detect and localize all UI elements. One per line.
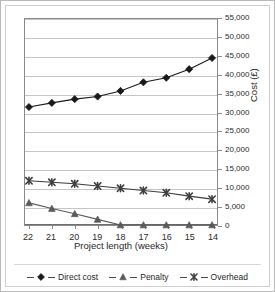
x-axis-tick [75, 225, 76, 229]
y-axis-tick-label: 35,000 [225, 90, 249, 98]
legend-label: Direct cost [57, 272, 98, 282]
y-axis-tick [218, 131, 222, 132]
legend-dash-right [48, 277, 55, 278]
y-axis-tick [218, 150, 222, 151]
legend-dash-left [109, 277, 116, 278]
series-layer [25, 19, 217, 225]
x-axis-tick [98, 225, 99, 229]
y-axis-tick-label: 0 [225, 222, 229, 230]
data-point-marker [48, 99, 55, 106]
chart-figure: 05,00010,00015,00020,00025,00030,00035,0… [0, 0, 275, 292]
y-axis-tick-label: 30,000 [225, 109, 249, 117]
legend-dash-right [201, 277, 208, 278]
plot-area [24, 18, 218, 226]
y-axis-tick-label: 15,000 [225, 165, 249, 173]
y-axis-tick [218, 56, 222, 57]
series-penalty [26, 200, 216, 228]
series-line [29, 58, 212, 107]
y-axis-tick [218, 207, 222, 208]
chart-legend: Direct costPenaltyOverhead [14, 264, 261, 286]
y-axis-tick [218, 94, 222, 95]
y-axis-tick [218, 188, 222, 189]
data-point-marker [71, 96, 78, 103]
y-axis-tick [218, 113, 222, 114]
legend-item-penalty[interactable]: Penalty [109, 272, 168, 282]
x-axis-title: Project length (weeks) [24, 240, 218, 251]
y-axis-tick-label: 20,000 [225, 146, 249, 154]
legend-item-direct-cost[interactable]: Direct cost [27, 272, 98, 282]
x-axis-tick [52, 225, 53, 229]
x-axis-tick [29, 225, 30, 229]
legend-label: Overhead [210, 272, 248, 282]
series-direct-cost [25, 54, 215, 110]
y-axis-tick-label: 5,000 [225, 203, 245, 211]
y-axis-tick-label: 10,000 [225, 184, 249, 192]
legend-dash-left [27, 277, 34, 278]
legend-label: Penalty [139, 272, 168, 282]
y-axis-title: Cost (£) [249, 68, 259, 102]
data-point-marker [26, 200, 33, 206]
x-marker-icon [180, 272, 208, 282]
y-axis-tick [218, 18, 222, 19]
y-axis-tick-label: 25,000 [225, 127, 249, 135]
y-axis-tick-label: 55,000 [225, 14, 249, 22]
legend-dash-left [180, 277, 187, 278]
y-axis-tick-label: 45,000 [225, 52, 249, 60]
legend-item-overhead[interactable]: Overhead [180, 272, 248, 282]
y-axis-tick-label: 50,000 [225, 33, 249, 41]
y-axis-tick [218, 226, 222, 227]
triangle-marker-icon [109, 272, 137, 282]
data-point-marker [117, 87, 124, 94]
data-point-marker [25, 103, 32, 110]
series-overhead [26, 177, 215, 202]
diamond-marker-icon [27, 272, 55, 282]
data-point-marker [94, 93, 101, 100]
data-point-marker [208, 54, 215, 61]
data-point-marker [163, 74, 170, 81]
y-axis-tick [218, 75, 222, 76]
data-point-marker [140, 79, 147, 86]
y-axis-tick [218, 37, 222, 38]
data-point-marker [186, 66, 193, 73]
legend-dash-right [130, 277, 137, 278]
chart-inner-frame: 05,00010,00015,00020,00025,00030,00035,0… [5, 5, 270, 287]
y-axis-tick [218, 169, 222, 170]
y-axis-tick-label: 40,000 [225, 71, 249, 79]
